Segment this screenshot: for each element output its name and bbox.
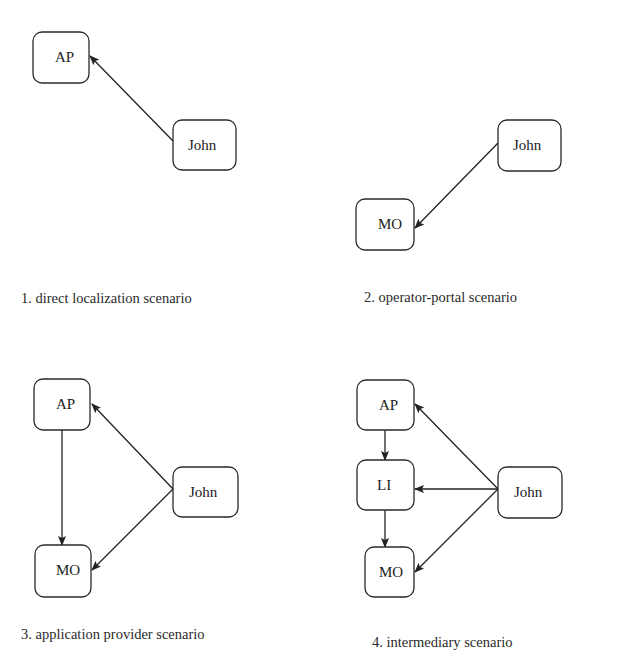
node-label: MO [379,564,403,580]
node-john: John [498,120,561,171]
node-ap: AP [34,379,90,430]
node-john: John [173,120,236,170]
edge-john-to-ap [415,404,498,489]
node-john: John [173,467,238,517]
edge-john-to-mo [92,489,173,570]
edge-john-to-mo [415,143,498,228]
scenario-diagrams: AP John 1. direct localization scenario … [0,0,622,659]
panel-application-provider: AP MO John 3. application provider scena… [21,379,238,642]
node-li: LI [357,460,414,510]
caption: 2. operator-portal scenario [364,289,517,305]
edge-john-to-mo [415,489,498,572]
edge-john-to-ap [92,404,173,489]
panel-direct-localization: AP John 1. direct localization scenario [21,32,236,306]
caption: 1. direct localization scenario [21,290,192,306]
node-label: John [513,137,542,153]
node-label: MO [378,216,402,232]
node-label: AP [56,396,75,412]
caption: 4. intermediary scenario [372,634,513,650]
node-label: AP [55,49,74,65]
node-mo: MO [356,199,414,250]
node-label: LI [377,477,391,493]
node-ap: AP [33,32,89,83]
panel-intermediary: AP LI MO John 4. intermediary scenario [357,380,562,650]
node-label: John [514,484,543,500]
node-label: MO [56,562,80,578]
node-label: John [188,137,217,153]
node-mo: MO [35,545,91,597]
node-john: John [498,467,562,518]
node-label: AP [379,397,398,413]
caption: 3. application provider scenario [21,626,205,642]
edge-john-to-ap [90,56,173,141]
node-ap: AP [357,380,414,430]
node-mo: MO [365,547,414,597]
node-label: John [189,484,218,500]
panel-operator-portal: John MO 2. operator-portal scenario [356,120,561,305]
